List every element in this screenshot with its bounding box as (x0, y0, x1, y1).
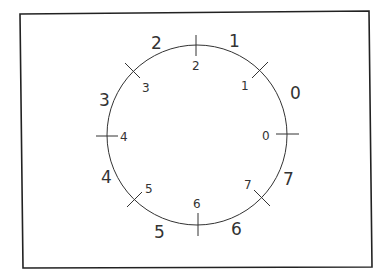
tick-1 (252, 62, 268, 78)
sector-label-3: 3 (99, 90, 110, 110)
sector-label-2: 2 (151, 33, 162, 53)
tick-7 (254, 190, 270, 206)
sector-label-1: 1 (229, 31, 240, 51)
sector-label-6: 6 (231, 219, 242, 239)
tick-label-6: 6 (193, 197, 201, 211)
tick-label-7: 7 (244, 178, 252, 192)
sector-label-7: 7 (283, 169, 294, 189)
tick-label-4: 4 (120, 130, 128, 144)
tick-3 (125, 63, 140, 78)
tick-label-2: 2 (192, 59, 200, 73)
tick-labels: 0 1 2 3 4 5 6 7 (120, 59, 270, 211)
tick-label-3: 3 (142, 81, 150, 95)
circle-diagram: 0 1 2 3 4 5 6 7 0 1 2 3 4 5 6 7 (0, 0, 389, 280)
sector-label-4: 4 (101, 167, 112, 187)
tick-label-0: 0 (262, 129, 270, 143)
tick-label-1: 1 (241, 79, 249, 93)
sector-label-0: 0 (290, 83, 301, 103)
sector-label-5: 5 (154, 222, 165, 242)
tick-label-5: 5 (145, 182, 153, 196)
